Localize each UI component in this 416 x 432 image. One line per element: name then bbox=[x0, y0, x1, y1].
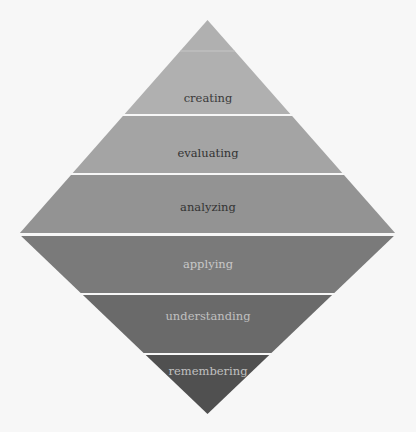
level-applying: applying bbox=[21, 236, 394, 293]
level-applying-label: applying bbox=[183, 257, 234, 271]
level-understanding-shape bbox=[83, 295, 332, 353]
level-creating-label: creating bbox=[184, 91, 233, 105]
level-analyzing: analyzing bbox=[20, 175, 395, 233]
level-remembering: remembering bbox=[146, 355, 270, 414]
level-evaluating-label: evaluating bbox=[177, 146, 239, 160]
level-remembering-label: remembering bbox=[168, 364, 248, 378]
level-understanding-label: understanding bbox=[165, 309, 251, 323]
level-analyzing-label: analyzing bbox=[180, 200, 236, 214]
diamond-pyramid: creating evaluating analyzing applying u… bbox=[0, 0, 416, 432]
bloom-taxonomy-diagram: creating evaluating analyzing applying u… bbox=[0, 0, 416, 432]
level-understanding: understanding bbox=[83, 295, 332, 353]
level-creating: creating bbox=[125, 20, 291, 114]
level-evaluating-shape bbox=[73, 116, 343, 173]
level-evaluating: evaluating bbox=[73, 116, 343, 173]
